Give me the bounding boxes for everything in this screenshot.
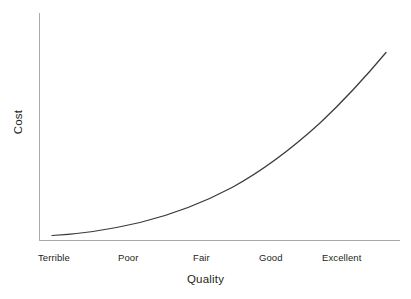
x-tick-label-terrible: Terrible — [38, 252, 70, 264]
chart-container: Terrible Poor Fair Good Excellent Qualit… — [0, 0, 411, 299]
y-axis-title: Cost — [12, 100, 24, 144]
x-tick-label-excellent: Excellent — [322, 252, 361, 264]
x-tick-label-good: Good — [259, 252, 283, 264]
x-axis-title: Quality — [0, 273, 411, 285]
y-axis-title-wrapper: Cost — [2, 104, 32, 148]
x-tick-label-poor: Poor — [118, 252, 138, 264]
x-tick-label-fair: Fair — [193, 252, 210, 264]
